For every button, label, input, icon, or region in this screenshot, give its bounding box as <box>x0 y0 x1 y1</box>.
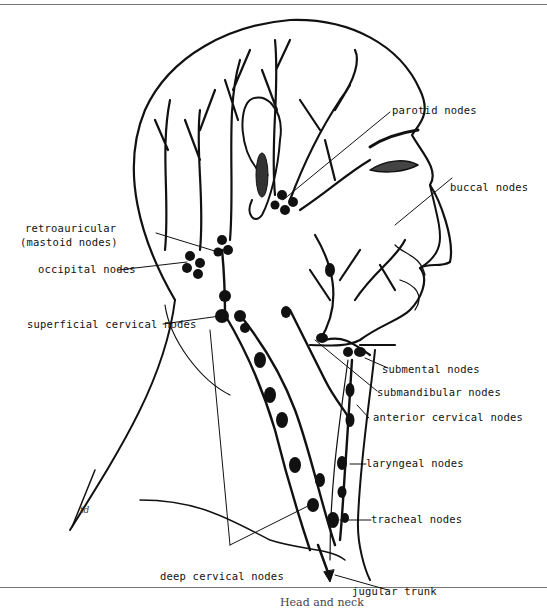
label-anterior-cervical-nodes: anterior cervical nodes <box>373 411 523 423</box>
artist-signature: td <box>80 505 90 515</box>
label-buccal-nodes: buccal nodes <box>450 181 528 193</box>
label-jugular-trunk: jugular trunk <box>352 585 437 597</box>
label-parotid-nodes: parotid nodes <box>392 104 477 116</box>
label-retroauricular: retroauricular <box>25 222 116 234</box>
label-submental-nodes: submental nodes <box>382 363 480 375</box>
label-tracheal-nodes: tracheal nodes <box>371 513 462 525</box>
label-mastoid-nodes: (mastoid nodes) <box>20 236 118 248</box>
label-submandibular-nodes: submandibular nodes <box>377 386 501 398</box>
label-occipital-nodes: occipital nodes <box>38 263 136 275</box>
label-laryngeal-nodes: laryngeal nodes <box>366 457 464 469</box>
figure-caption-partial: Head and neck <box>280 596 364 609</box>
label-superficial-cervical-nodes: superficial cervical nodes <box>27 318 197 330</box>
label-deep-cervical-nodes: deep cervical nodes <box>160 570 284 582</box>
head-neck-lymphatic-illustration: td <box>0 0 547 610</box>
